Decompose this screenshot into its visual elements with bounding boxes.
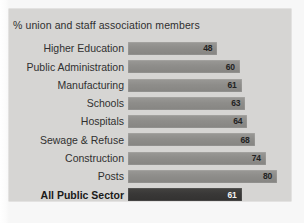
bar-track: 61 xyxy=(128,188,282,201)
bar-row: All Public Sector61 xyxy=(0,186,282,203)
category-label: All Public Sector xyxy=(0,190,128,201)
bar-value-label: 80 xyxy=(263,172,277,181)
bar: 64 xyxy=(128,115,247,128)
category-label: Public Administration xyxy=(0,62,128,73)
bar: 61 xyxy=(128,79,242,92)
bar-row: Higher Education48 xyxy=(0,40,282,57)
bar-track: 48 xyxy=(128,42,282,55)
category-label: Manufacturing xyxy=(0,80,128,91)
bar-track: 63 xyxy=(128,97,282,110)
bar-row: Schools63 xyxy=(0,95,282,112)
category-label: Schools xyxy=(0,98,128,109)
chart-title: % union and staff association members xyxy=(13,19,200,31)
bar: 74 xyxy=(128,152,266,165)
bar-row: Hospitals64 xyxy=(0,113,282,130)
bar-rows: Higher Education48Public Administration6… xyxy=(0,40,282,205)
bar-track: 61 xyxy=(128,79,282,92)
bar-row: Manufacturing61 xyxy=(0,77,282,94)
bar-value-label: 74 xyxy=(252,154,266,163)
category-label: Construction xyxy=(0,153,128,164)
bar-track: 64 xyxy=(128,115,282,128)
bar-row: Sewage & Refuse68 xyxy=(0,131,282,148)
category-label: Higher Education xyxy=(0,43,128,54)
bar: 61 xyxy=(128,188,242,201)
bar-track: 60 xyxy=(128,60,282,73)
bar: 48 xyxy=(128,42,217,55)
category-label: Sewage & Refuse xyxy=(0,135,128,146)
chart-figure: % union and staff association members Hi… xyxy=(0,0,304,223)
bar: 68 xyxy=(128,133,255,146)
bar-value-label: 68 xyxy=(241,136,255,145)
bar: 60 xyxy=(128,60,240,73)
bar-value-label: 48 xyxy=(203,44,217,53)
bar-value-label: 64 xyxy=(233,117,247,126)
bar-value-label: 63 xyxy=(231,99,245,108)
bar-row: Construction74 xyxy=(0,150,282,167)
bar-row: Public Administration60 xyxy=(0,58,282,75)
bar: 63 xyxy=(128,97,245,110)
bar-value-label: 61 xyxy=(228,191,242,200)
bar-row: Posts80 xyxy=(0,168,282,185)
category-label: Hospitals xyxy=(0,116,128,127)
bar-track: 74 xyxy=(128,152,282,165)
category-label: Posts xyxy=(0,171,128,182)
bar-value-label: 60 xyxy=(226,63,240,72)
bar: 80 xyxy=(128,170,277,183)
bar-track: 68 xyxy=(128,133,282,146)
bar-value-label: 61 xyxy=(228,81,242,90)
bar-track: 80 xyxy=(128,170,282,183)
